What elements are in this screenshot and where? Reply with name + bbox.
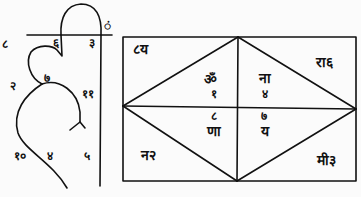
- center-na: ना: [259, 71, 271, 85]
- center-ya: य: [261, 124, 269, 138]
- center-num-4: ४: [262, 88, 268, 100]
- left-label-mark: ं: [104, 20, 111, 32]
- corner-bottom-right: मी३: [317, 153, 336, 167]
- center-num-8: ८: [211, 110, 217, 122]
- left-vertical-stem: [100, 35, 101, 186]
- left-top-arch: [61, 4, 101, 35]
- diamond-br: [237, 109, 356, 181]
- left-label-top-left: ८: [2, 38, 8, 50]
- center-num-1: १: [211, 88, 217, 100]
- left-label-center-lower: ४: [47, 150, 53, 162]
- left-label-left-lower: १०: [14, 150, 26, 162]
- left-label-left-upper: २: [10, 80, 16, 92]
- chart-mid-horizontal: [123, 106, 356, 109]
- left-label-top-mid: ६: [53, 37, 59, 49]
- corner-top-left: ८य: [133, 42, 148, 56]
- left-label-right-lower: ५: [84, 150, 90, 162]
- center-num-7: ७: [261, 110, 267, 122]
- diamond-bl: [123, 106, 237, 181]
- center-om: ॐ: [204, 72, 217, 86]
- left-label-top-right: ३: [89, 37, 95, 49]
- center-nna: णा: [207, 124, 221, 138]
- diamond-tr: [238, 37, 356, 109]
- left-tail-curve: [17, 84, 67, 188]
- corner-bottom-left: न२: [141, 148, 156, 162]
- corner-top-right: रा६: [316, 55, 333, 69]
- chart-mid-vertical: [237, 37, 238, 181]
- diagram-lines: [0, 0, 361, 197]
- left-label-right-upper: ११: [82, 88, 94, 100]
- left-big-curve: [42, 83, 80, 122]
- left-label-center: ७: [44, 72, 50, 84]
- left-fork: [70, 122, 85, 130]
